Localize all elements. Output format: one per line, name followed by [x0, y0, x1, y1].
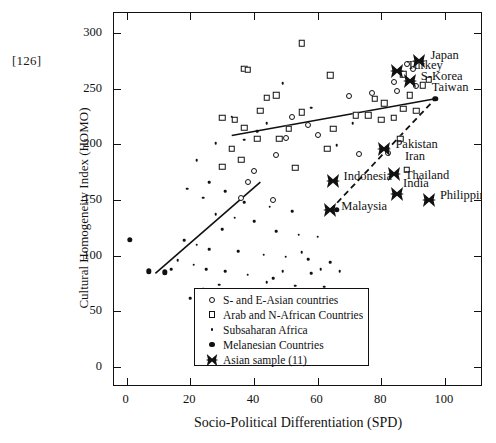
- data-point: [214, 142, 217, 145]
- data-point: [310, 106, 313, 109]
- x-tick: [127, 13, 128, 20]
- y-tick-label: 250: [83, 80, 102, 95]
- data-point: [257, 108, 264, 115]
- data-point: [273, 152, 279, 158]
- asian-sample-point: [376, 141, 392, 157]
- data-point: [400, 105, 407, 112]
- x-tick-label: 20: [183, 392, 196, 407]
- data-point: [162, 270, 167, 275]
- x-tick: [445, 378, 446, 385]
- legend-glyph: [209, 311, 216, 318]
- data-point: [241, 124, 248, 131]
- data-point: [195, 243, 198, 246]
- y-tick-label: 300: [83, 25, 102, 40]
- y-tick: [474, 256, 481, 257]
- asian-sample-point: [402, 73, 418, 89]
- x-tick-label: 60: [310, 392, 323, 407]
- data-point: [234, 217, 237, 220]
- x-tick: [318, 13, 319, 20]
- data-point: [272, 277, 275, 280]
- data-point: [221, 228, 224, 231]
- x-tick: [127, 378, 128, 385]
- x-tick-label: 100: [434, 392, 453, 407]
- data-point: [127, 237, 132, 242]
- x-tick-label: 40: [247, 392, 260, 407]
- x-tick: [190, 13, 191, 20]
- data-point: [276, 136, 283, 143]
- data-point: [324, 146, 331, 153]
- legend-item: S- and E-Asian countries: [195, 292, 368, 307]
- data-point: [346, 93, 352, 99]
- data-point: [307, 258, 310, 261]
- data-point: [413, 108, 420, 115]
- data-point: [219, 163, 226, 170]
- data-point: [327, 72, 334, 79]
- legend-marker-open-square-icon: [201, 307, 223, 322]
- data-point: [208, 248, 211, 251]
- legend-label: Melanesian Countries: [223, 339, 324, 351]
- country-label-indonesia: Indonesia: [343, 170, 392, 183]
- data-point: [214, 213, 217, 216]
- legend-rows: S- and E-Asian countriesArab and N-Afric…: [195, 292, 368, 367]
- data-point: [300, 251, 303, 254]
- data-point: [294, 284, 297, 287]
- x-tick: [381, 13, 382, 20]
- x-tick-label: 80: [374, 392, 387, 407]
- data-point: [281, 270, 284, 273]
- data-point: [176, 259, 179, 262]
- data-point: [192, 263, 195, 266]
- data-point: [254, 136, 261, 143]
- data-point: [407, 92, 414, 99]
- legend-marker-filled-dot-icon: [201, 337, 223, 352]
- data-point: [329, 261, 332, 264]
- data-point: [289, 114, 295, 120]
- y-tick: [114, 311, 121, 312]
- data-point: [335, 144, 338, 147]
- data-point: [378, 117, 385, 124]
- data-point: [339, 270, 342, 273]
- country-label-taiwan: Taiwan: [432, 81, 469, 94]
- legend-glyph: [211, 328, 214, 331]
- data-point: [269, 205, 272, 208]
- y-tick: [474, 311, 481, 312]
- data-point: [218, 283, 221, 286]
- y-tick: [474, 144, 481, 145]
- data-point: [372, 95, 379, 102]
- data-point: [202, 196, 205, 199]
- asian-sample-point: [322, 202, 338, 218]
- legend-label: Subsaharan Africa: [223, 324, 308, 336]
- country-label-malaysia: Malaysia: [341, 200, 387, 213]
- data-point: [228, 146, 235, 153]
- data-point: [365, 112, 372, 119]
- data-point: [283, 135, 289, 141]
- data-point: [238, 157, 245, 164]
- data-point: [298, 40, 305, 47]
- legend-label: S- and E-Asian countries: [223, 294, 338, 306]
- data-point: [238, 195, 244, 201]
- data-point: [275, 230, 278, 233]
- data-point: [224, 270, 227, 273]
- data-point: [351, 122, 354, 125]
- asian-sample-point: [421, 192, 437, 208]
- y-tick-label: 200: [83, 136, 102, 151]
- data-point: [251, 168, 257, 174]
- data-point: [284, 255, 287, 258]
- data-point: [195, 159, 198, 162]
- legend-item: Asian sample (11): [195, 352, 368, 367]
- figure-root: [126] Cultural Homogeneity Index (HOMO) …: [0, 0, 496, 443]
- x-tick: [381, 378, 382, 385]
- legend-marker-bold-x-icon: [201, 352, 223, 367]
- data-point: [297, 233, 300, 236]
- country-label-philippines: Philippines: [440, 189, 481, 202]
- data-point: [265, 122, 268, 125]
- y-tick: [114, 89, 121, 90]
- data-point: [291, 210, 294, 213]
- data-point: [356, 151, 362, 157]
- data-point: [256, 130, 259, 133]
- data-point: [310, 272, 313, 275]
- data-point: [433, 96, 438, 101]
- data-point: [244, 67, 251, 74]
- x-tick: [318, 378, 319, 385]
- legend-label: Arab and N-African Countries: [223, 309, 363, 321]
- y-tick: [474, 89, 481, 90]
